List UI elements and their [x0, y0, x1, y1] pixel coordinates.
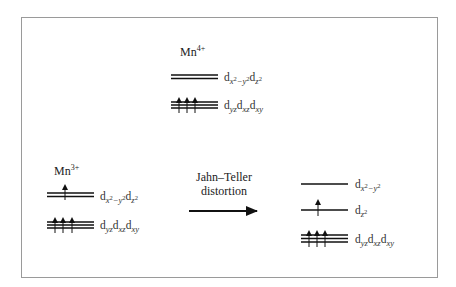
- mn4-t2g-label: dyzdxzdxy: [224, 99, 263, 115]
- mn4-ion-label: Mn4+: [180, 44, 205, 60]
- mn3-eg-level: [47, 187, 94, 200]
- mn3-t2g-level: [47, 220, 94, 233]
- mn4-t2g-level: [171, 100, 218, 113]
- jahn-teller-label: Jahn–Teller distortion: [189, 170, 259, 198]
- distorted-dz2-label: dz2: [355, 204, 367, 220]
- mn4-eg-level: [171, 75, 218, 79]
- mn3-ion-label: Mn3+: [54, 163, 79, 179]
- mn4-eg-label: dx2−y2dz2: [224, 71, 262, 87]
- distorted-t2g-level: [301, 233, 348, 247]
- mn3-t2g-label: dyzdxzdxy: [100, 219, 139, 235]
- distorted-dx2y2-label: dx2−y2: [355, 178, 381, 194]
- distorted-t2g-label: dyzdxzdxy: [355, 233, 394, 249]
- distorted-dz2-level: [301, 202, 348, 216]
- mn3-eg-label: dx2−y2dz2: [100, 190, 138, 206]
